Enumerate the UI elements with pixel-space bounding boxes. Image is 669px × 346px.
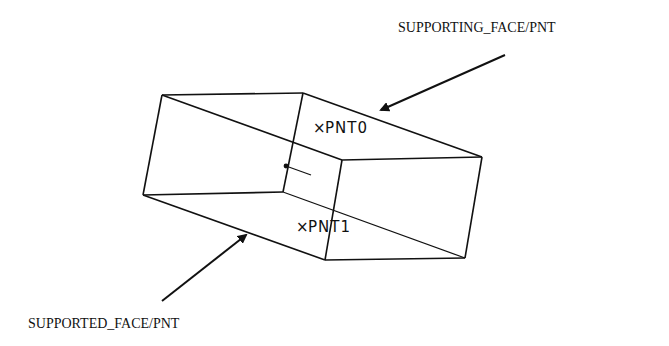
left-bottom-back-edge: [143, 192, 283, 195]
supporting-face-label: SUPPORTING_FACE/PNT: [398, 20, 556, 36]
center-tick: [286, 166, 311, 175]
box-drawing: × PNT0 × PNT1: [0, 0, 669, 346]
diagram-canvas: × PNT0 × PNT1 SUPPORTING_FACE/PNT SUPPOR…: [0, 0, 669, 346]
supporting-arrow: [381, 55, 505, 110]
left-vertical-edge: [143, 95, 162, 195]
point-pnt1: × PNT1: [296, 218, 351, 236]
center-dot: [284, 164, 287, 167]
bottom-front-edge: [325, 258, 465, 260]
supported-arrow: [162, 235, 246, 301]
point-pnt0: × PNT0: [313, 119, 368, 137]
front-top-edge: [342, 157, 482, 160]
pnt0-label: PNT0: [325, 119, 368, 137]
top-back-edge: [162, 93, 303, 95]
pnt1-label: PNT1: [308, 218, 351, 236]
right-vertical-edge: [465, 157, 482, 258]
supported-face-label: SUPPORTED_FACE/PNT: [28, 316, 179, 332]
inner-vertical-edge: [283, 93, 303, 192]
